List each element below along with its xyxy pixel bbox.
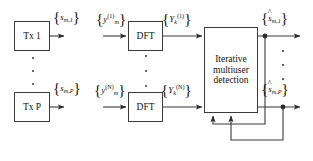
detector-line-2: multiuser (213, 65, 249, 76)
dot (32, 83, 34, 85)
subscript: m,1 (272, 17, 281, 24)
brace-close: } (74, 80, 81, 96)
dot (32, 57, 34, 59)
subscript: k (173, 89, 176, 96)
label-dft-first-output: {Yk(1)} (162, 12, 191, 27)
block-tx-first: Tx 1 (14, 21, 50, 51)
subscript: m,P (64, 87, 74, 94)
label-rx-first-input: {y(1)m} (96, 12, 126, 27)
subscript: m,P (272, 88, 282, 95)
dot (145, 70, 147, 72)
block-dft-first-label: DFT (137, 31, 155, 42)
block-dft-last-label: DFT (137, 102, 155, 113)
hat-accent: ^ (268, 80, 272, 88)
block-tx-first-label: Tx 1 (23, 31, 41, 42)
subscript: m,1 (64, 16, 73, 23)
ellipsis-dft-column (144, 55, 148, 87)
dot (145, 85, 147, 87)
block-tx-last-label: Tx P (23, 102, 41, 113)
junction-dot-last-output (281, 105, 286, 110)
brace-close: } (119, 11, 126, 27)
brace-close: } (185, 82, 192, 98)
junction-dot-first-output (263, 34, 268, 39)
dot (32, 70, 34, 72)
brace-close: } (73, 9, 80, 25)
detector-line-3: detection (214, 75, 249, 86)
subscript: k (174, 18, 177, 25)
block-dft-first: DFT (128, 21, 163, 51)
brace-close: } (281, 10, 288, 26)
block-dft-last: DFT (128, 92, 163, 122)
label-rx-last-input: {y(N)m} (94, 83, 125, 98)
label-dft-last-output: {Yk(N)} (161, 83, 192, 98)
ellipsis-tx-column (31, 57, 35, 85)
label-estimate-last: {^sm,P} (261, 82, 289, 97)
dot (282, 50, 284, 52)
figure-canvas: Tx 1 Tx P DFT DFT Iterative multiuser de… (0, 0, 313, 161)
superscript: (N) (105, 83, 114, 90)
block-iterative-multiuser-detection: Iterative multiuser detection (204, 27, 258, 113)
label-tx-last-output: {sm,P} (53, 81, 81, 96)
ellipsis-output-column (281, 50, 285, 80)
detector-line-1: Iterative (215, 54, 247, 65)
label-tx-first-output: {sm,1} (53, 10, 80, 25)
brace-close: } (118, 82, 125, 98)
dot (145, 55, 147, 57)
block-tx-last: Tx P (14, 92, 50, 122)
brace-close: } (282, 81, 289, 97)
hat-accent: ^ (268, 9, 272, 17)
dot (282, 64, 284, 66)
brace-close: } (184, 11, 191, 27)
dot (282, 78, 284, 80)
superscript: (N) (176, 83, 185, 90)
label-estimate-first: {^sm,1} (261, 11, 288, 26)
